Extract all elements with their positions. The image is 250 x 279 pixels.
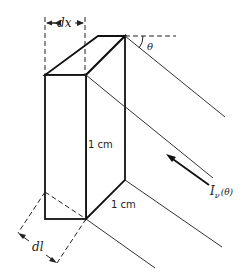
dx-label: dx	[57, 16, 72, 30]
ray-bottom-front	[86, 219, 155, 268]
theta-label: θ	[147, 41, 153, 52]
slab-front-face	[45, 75, 86, 219]
intensity-label: Iν(θ)	[209, 184, 234, 200]
height-label: 1 cm	[88, 139, 113, 150]
theta-angle-arc	[139, 36, 143, 48]
dl-label: dl	[32, 240, 44, 254]
slab-radiation-diagram: dx θ 1 cm 1 cm dl Iν(θ)	[0, 0, 250, 279]
dl-guide-left	[18, 192, 45, 233]
intensity-subscript: ν	[215, 191, 220, 200]
ray-top-back	[125, 36, 225, 117]
dl-guide-right	[57, 219, 86, 263]
slab-box	[45, 36, 125, 219]
intensity-argument: (θ)	[221, 187, 234, 197]
ray-bottom-back	[125, 180, 222, 247]
depth-label: 1 cm	[111, 199, 136, 210]
intensity-arrow	[170, 157, 209, 185]
